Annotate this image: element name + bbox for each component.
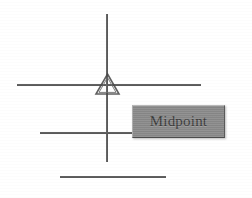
- object-line-bottom[interactable]: [60, 176, 166, 178]
- object-line-middle[interactable]: [40, 132, 137, 134]
- paper-grain-overlay: [0, 0, 252, 198]
- snap-tooltip-label: Midpoint: [150, 114, 207, 129]
- midpoint-triangle-icon: [94, 71, 121, 97]
- cad-drawing-canvas[interactable]: Midpoint: [0, 0, 252, 198]
- snap-tooltip: Midpoint: [132, 105, 225, 138]
